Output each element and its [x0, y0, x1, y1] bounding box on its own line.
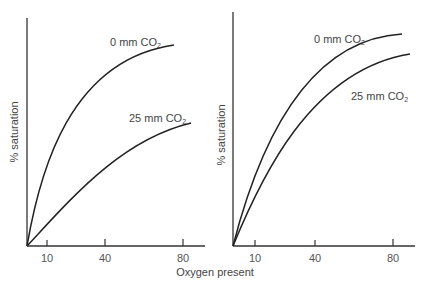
- right-label-25mm: 25 mm CO2: [351, 90, 408, 103]
- right-y-label: % saturation: [215, 104, 227, 165]
- left-curve-25mm: [27, 123, 191, 246]
- right-chart: 10 40 80 % saturation 0 mm CO2 25 mm CO2: [215, 12, 415, 264]
- right-label-0mm: 0 mm CO2: [314, 33, 365, 46]
- left-label-25mm: 25 mm CO2: [129, 112, 186, 125]
- right-tick-label-80: 80: [387, 252, 399, 264]
- chart-canvas: 10 40 80 % saturation 0 mm CO2 25 mm CO2…: [0, 0, 430, 287]
- left-tick-label-10: 10: [41, 252, 53, 264]
- right-tick-label-40: 40: [309, 252, 321, 264]
- left-curve-0mm: [27, 45, 174, 246]
- x-axis-label: Oxygen present: [176, 266, 254, 278]
- left-y-label: % saturation: [8, 101, 20, 162]
- left-tick-label-40: 40: [99, 252, 111, 264]
- left-label-0mm: 0 mm CO2: [110, 36, 161, 49]
- right-curve-0mm: [233, 34, 402, 246]
- left-chart: 10 40 80 % saturation 0 mm CO2 25 mm CO2: [8, 18, 205, 264]
- left-tick-label-80: 80: [177, 252, 189, 264]
- right-tick-label-10: 10: [249, 252, 261, 264]
- right-curve-25mm: [233, 54, 410, 246]
